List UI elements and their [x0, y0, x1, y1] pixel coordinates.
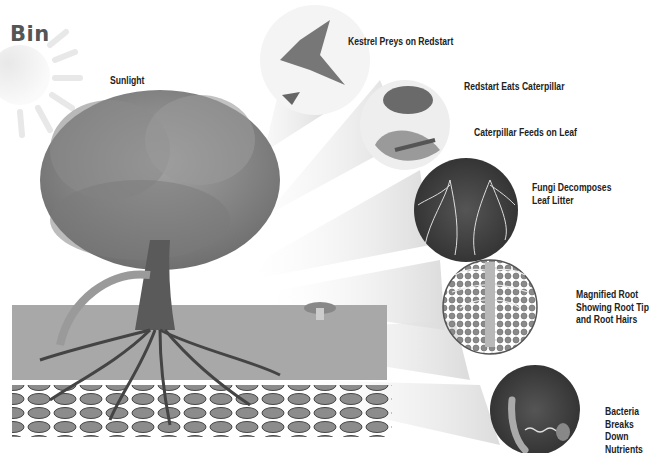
label-root-line3: and Root Hairs: [576, 313, 649, 326]
label-kestrel: Kestrel Preys on Redstart: [348, 35, 453, 48]
rock-layer: [12, 385, 392, 437]
label-root-line2: Showing Root Tip: [576, 301, 649, 314]
bacteria-circle: [490, 365, 580, 453]
redstart-circle: [360, 80, 450, 170]
label-bacteria-line4: Nutrients: [605, 443, 643, 453]
label-root-line1: Magnified Root: [576, 288, 649, 301]
label-sunlight: Sunlight: [110, 74, 144, 87]
kestrel-circle: [260, 5, 370, 115]
label-bacteria-line2: Breaks: [605, 418, 643, 431]
label-redstart: Redstart Eats Caterpillar: [464, 80, 564, 93]
fungi-circle: [414, 158, 518, 262]
label-caterpillar: Caterpillar Feeds on Leaf: [474, 126, 577, 139]
root-circle: [443, 260, 537, 354]
label-fungi: Fungi Decomposes Leaf Litter: [532, 181, 611, 206]
label-bacteria-line1: Bacteria: [605, 405, 643, 418]
label-bacteria: Bacteria Breaks Down Nutrients: [605, 405, 643, 453]
label-fungi-line2: Leaf Litter: [532, 194, 611, 207]
label-root: Magnified Root Showing Root Tip and Root…: [576, 288, 649, 326]
label-bacteria-line3: Down: [605, 430, 643, 443]
label-fungi-line1: Fungi Decomposes: [532, 181, 611, 194]
page-title: Bin: [10, 22, 50, 46]
